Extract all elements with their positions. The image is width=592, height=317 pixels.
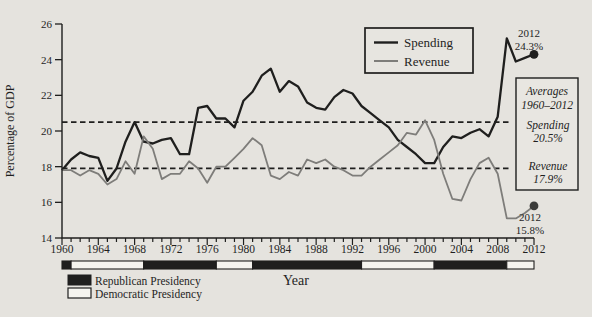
democratic-presidency-segment <box>507 261 534 269</box>
y-tick-label: 24 <box>41 54 53 66</box>
y-tick-label: 26 <box>41 18 53 30</box>
averages-range: 1960–2012 <box>521 99 573 111</box>
x-tick-label: 2000 <box>414 243 437 255</box>
legend-spending-label: Spending <box>404 35 454 50</box>
averages-title: Averages <box>525 85 569 98</box>
democratic-legend-label: Democratic Presidency <box>95 288 202 301</box>
presidency-legend: Republican Presidency Democratic Preside… <box>68 275 202 301</box>
democratic-presidency-segment <box>216 261 252 269</box>
republican-swatch <box>68 275 91 285</box>
y-tick-label: 16 <box>41 196 53 208</box>
spending-endpoint-annotation: 2012 24.3% <box>515 27 543 52</box>
republican-legend-label: Republican Presidency <box>95 275 201 288</box>
y-axis: 26242220181614 <box>41 18 62 244</box>
y-tick-label: 22 <box>41 89 52 101</box>
revenue-end-year: 2012 <box>519 211 541 223</box>
x-tick-label: 1960 <box>51 243 74 255</box>
spending-end-value: 24.3% <box>515 40 543 52</box>
x-tick-label: 1972 <box>159 243 182 255</box>
spending-end-year: 2012 <box>518 27 540 39</box>
average-spending-label: Spending <box>527 119 570 132</box>
democratic-presidency-segment <box>71 261 144 269</box>
x-tick-label: 2012 <box>523 243 546 255</box>
republican-presidency-segment <box>253 261 362 269</box>
revenue-endpoint-annotation: 2012 15.8% <box>516 211 544 236</box>
x-tick-label: 1984 <box>268 243 291 255</box>
x-tick-label: 1992 <box>341 243 364 255</box>
x-tick-label: 1996 <box>377 243 400 255</box>
average-spending-value: 20.5% <box>533 132 563 144</box>
republican-presidency-segment <box>144 261 217 269</box>
average-revenue-label: Revenue <box>528 160 568 172</box>
revenue-end-value: 15.8% <box>516 224 544 236</box>
revenue-line <box>62 120 534 218</box>
x-axis-title: Year <box>283 273 309 288</box>
x-tick-label: 2004 <box>450 243 473 255</box>
x-tick-label: 1988 <box>305 243 328 255</box>
presidency-timeline-bar <box>62 261 534 269</box>
average-revenue-value: 17.9% <box>533 173 563 185</box>
x-tick-label: 2008 <box>486 243 509 255</box>
republican-presidency-segment <box>62 261 71 269</box>
democratic-swatch <box>68 288 91 298</box>
x-tick-label: 1980 <box>232 243 255 255</box>
spending-revenue-chart: 26242220181614 1960196419681972197619801… <box>0 0 592 317</box>
y-tick-label: 20 <box>41 125 53 137</box>
legend: Spending Revenue <box>365 28 473 73</box>
legend-revenue-label: Revenue <box>404 54 450 69</box>
y-tick-label: 18 <box>41 161 53 173</box>
republican-presidency-segment <box>434 261 507 269</box>
x-tick-label: 1964 <box>87 243 110 255</box>
revenue-end-dot <box>530 202 539 211</box>
democratic-presidency-segment <box>362 261 435 269</box>
averages-box: Averages 1960–2012 Spending 20.5% Revenu… <box>516 78 578 190</box>
x-axis: 1960196419681972197619801984198819921996… <box>51 238 546 255</box>
x-tick-label: 1968 <box>123 243 146 255</box>
x-tick-label: 1976 <box>196 243 219 255</box>
y-axis-title: Percentage of GDP <box>3 84 17 177</box>
